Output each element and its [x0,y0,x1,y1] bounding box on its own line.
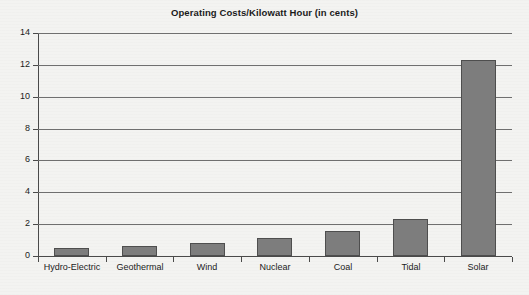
x-axis-tick [377,257,378,262]
y-axis-tick-label: 14 [8,28,30,37]
y-axis-tick [33,192,38,193]
gridline [38,65,512,66]
gridline [38,224,512,225]
x-axis-tick [38,257,39,262]
x-axis-tick [173,257,174,262]
y-axis-tick [33,33,38,34]
x-axis-category-label: Nuclear [241,263,309,273]
y-axis-tick-label: 10 [8,92,30,101]
y-axis-tick [33,160,38,161]
y-axis-tick [33,224,38,225]
y-axis-tick-label: 2 [8,219,30,228]
x-axis-category-label: Geothermal [106,263,174,273]
x-axis-tick [309,257,310,262]
y-axis-tick [33,97,38,98]
y-axis-tick [33,129,38,130]
chart-title: Operating Costs/Kilowatt Hour (in cents) [0,7,529,18]
gridline [38,129,512,130]
x-axis-category-label: Tidal [377,263,445,273]
chart-figure: Operating Costs/Kilowatt Hour (in cents)… [0,0,529,295]
bar [54,248,89,256]
y-axis-tick-label: 12 [8,60,30,69]
gridline [38,160,512,161]
bar [461,60,496,256]
x-axis-category-label: Hydro-Electric [38,263,106,273]
y-axis-tick [33,65,38,66]
y-axis-tick-label: 8 [8,124,30,133]
bar [122,246,157,256]
x-axis-category-label: Wind [173,263,241,273]
x-axis-tick [241,257,242,262]
x-axis-category-label: Coal [309,263,377,273]
x-axis-tick [106,257,107,262]
gridline [38,97,512,98]
y-axis-tick-label: 6 [8,155,30,164]
y-axis-tick-label: 4 [8,187,30,196]
plot-area [38,33,512,256]
y-axis-tick-label: 0 [8,251,30,260]
x-axis-category-label: Solar [444,263,512,273]
bar [257,238,292,256]
bar [325,231,360,256]
gridline [38,256,512,257]
bar [393,219,428,256]
bar [190,243,225,256]
x-axis-tick [512,257,513,262]
x-axis-tick [444,257,445,262]
gridline [38,192,512,193]
gridline [38,33,512,34]
